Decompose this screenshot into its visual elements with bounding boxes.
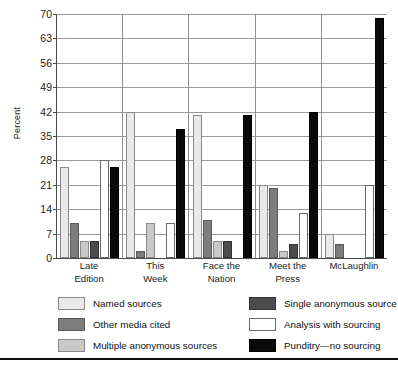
- y-tick-label: 42: [40, 106, 52, 118]
- bar-group: [57, 14, 123, 258]
- x-category-label: LateEdition: [56, 260, 122, 285]
- bar: [259, 185, 268, 258]
- legend-item: Other media cited: [58, 318, 217, 331]
- bar: [110, 167, 119, 258]
- bar-group: [123, 14, 189, 258]
- x-category-label-line: Nation: [188, 273, 254, 286]
- bar: [80, 241, 89, 258]
- bar: [126, 112, 135, 258]
- legend-item: Single anonymous source: [249, 297, 397, 310]
- bar: [309, 112, 318, 258]
- bar: [70, 223, 79, 258]
- bar: [375, 18, 384, 259]
- bar-group: [322, 14, 387, 258]
- y-tick-label: 0: [46, 252, 52, 264]
- bar: [299, 213, 308, 258]
- x-category-label-line: McLaughlin: [321, 260, 387, 273]
- x-category-label-line: Edition: [56, 273, 122, 286]
- x-category-label: McLaughlin: [321, 260, 387, 285]
- y-axis-title: Percent: [12, 83, 22, 163]
- legend-item: Multiple anonymous sources: [58, 339, 217, 352]
- legend-swatch-icon: [249, 339, 276, 352]
- y-tick-label: 14: [40, 203, 52, 215]
- legend-swatch-icon: [58, 318, 85, 331]
- y-tick-label: 63: [40, 32, 52, 44]
- x-category-label-line: Face the: [188, 260, 254, 273]
- legend-item: Analysis with sourcing: [249, 318, 397, 331]
- y-tick-label: 35: [40, 130, 52, 142]
- bar: [365, 185, 374, 258]
- bar: [60, 167, 69, 258]
- y-tick-label: 28: [40, 154, 52, 166]
- legend-swatch-icon: [58, 297, 85, 310]
- legend-item: Named sources: [58, 297, 217, 310]
- bar: [136, 251, 145, 258]
- y-tick-mark: [53, 258, 57, 259]
- legend-label: Multiple anonymous sources: [93, 340, 217, 351]
- bar: [100, 160, 109, 258]
- x-category-label: Face theNation: [188, 260, 254, 285]
- x-axis-category-labels: LateEditionThisWeekFace theNationMeet th…: [56, 260, 387, 285]
- bar: [176, 129, 185, 258]
- bar: [223, 241, 232, 258]
- legend-swatch-icon: [249, 318, 276, 331]
- legend-label: Other media cited: [93, 319, 170, 330]
- chart-legend: Named sourcesOther media citedMultiple a…: [0, 297, 398, 353]
- plot-area: 07142128354249566370: [56, 14, 387, 259]
- bar-chart-figure: Percent 07142128354249566370 LateEdition…: [0, 0, 398, 367]
- legend-label: Single anonymous source: [284, 298, 397, 309]
- legend-label: Analysis with sourcing: [284, 319, 380, 330]
- y-tick-label: 56: [40, 57, 52, 69]
- legend-label: Punditry—no sourcing: [284, 340, 380, 351]
- bar: [279, 251, 288, 258]
- bar: [90, 241, 99, 258]
- legend-item: Punditry—no sourcing: [249, 339, 397, 352]
- bar-group: [256, 14, 322, 258]
- bar: [243, 115, 252, 258]
- x-category-label-line: Late: [56, 260, 122, 273]
- bar: [146, 223, 155, 258]
- x-category-label: Meet thePress: [255, 260, 321, 285]
- x-category-label-line: This: [122, 260, 188, 273]
- bar: [203, 220, 212, 258]
- bar: [289, 244, 298, 258]
- legend-column-right: Single anonymous sourceAnalysis with sou…: [249, 297, 397, 352]
- y-tick-label: 21: [40, 179, 52, 191]
- legend-column-left: Named sourcesOther media citedMultiple a…: [58, 297, 217, 352]
- x-category-label-line: Week: [122, 273, 188, 286]
- bar: [335, 244, 344, 258]
- bar: [213, 241, 222, 258]
- bottom-rule-divider: [0, 358, 398, 360]
- y-tick-label: 49: [40, 81, 52, 93]
- legend-swatch-icon: [58, 339, 85, 352]
- y-tick-label: 7: [46, 228, 52, 240]
- bar: [166, 223, 175, 258]
- bar: [325, 234, 334, 258]
- bar-group: [189, 14, 255, 258]
- legend-label: Named sources: [93, 298, 162, 309]
- x-category-label: ThisWeek: [122, 260, 188, 285]
- y-tick-label: 70: [40, 8, 52, 20]
- bar: [269, 188, 278, 258]
- legend-swatch-icon: [249, 297, 276, 310]
- bar: [193, 115, 202, 258]
- x-category-label-line: Press: [255, 273, 321, 286]
- x-category-label-line: Meet the: [255, 260, 321, 273]
- bar-groups: [57, 14, 387, 258]
